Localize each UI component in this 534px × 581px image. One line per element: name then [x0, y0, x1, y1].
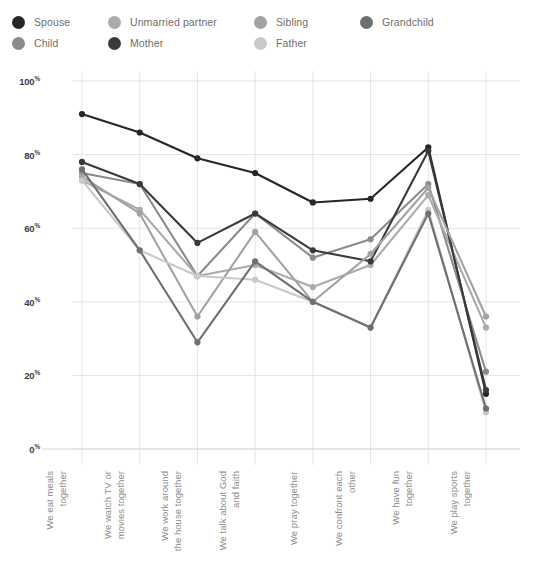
data-point-spouse-0[interactable] — [79, 111, 85, 117]
legend-item-label: Child — [34, 37, 58, 50]
x-axis-label-text: We have funtogether — [390, 471, 415, 581]
legend-item-sibling[interactable]: Sibling — [254, 14, 308, 30]
data-point-spouse-5[interactable] — [367, 196, 373, 202]
x-axis-label-text: We eat mealstogether — [44, 471, 69, 581]
x-axis-tick-label: We pray together — [300, 471, 313, 581]
data-point-father-2[interactable] — [194, 273, 200, 279]
data-point-mother-7[interactable] — [483, 387, 489, 393]
x-axis-tick-label: We have funtogether — [415, 471, 428, 581]
data-point-mother-5[interactable] — [367, 258, 373, 264]
data-point-grandchild-4[interactable] — [310, 299, 316, 305]
legend-swatch-icon — [108, 16, 121, 29]
data-point-grandchild-2[interactable] — [194, 339, 200, 345]
data-point-spouse-1[interactable] — [137, 129, 143, 135]
legend-item-child[interactable]: Child — [12, 35, 58, 51]
data-point-father-0[interactable] — [79, 177, 85, 183]
legend-item-label: Sibling — [276, 16, 308, 29]
legend-item-label: Mother — [130, 37, 163, 50]
data-point-father-3[interactable] — [252, 277, 258, 283]
y-axis-tick-label: 100% — [6, 75, 40, 87]
x-axis-tick-label: We confront eachother — [358, 471, 371, 581]
x-axis-label-text: We watch TV ormovies together — [102, 471, 127, 581]
legend-item-label: Father — [276, 37, 307, 50]
x-axis-label-text: We confront eachother — [333, 471, 358, 581]
x-axis-tick-label: We watch TV ormovies together — [127, 471, 140, 581]
y-axis-tick-label: 80% — [6, 149, 40, 161]
x-axis-label-text: We play sportstogether — [448, 471, 473, 581]
data-point-grandchild-7[interactable] — [483, 405, 489, 411]
legend-item-spouse[interactable]: Spouse — [12, 14, 70, 30]
data-point-sibling-3[interactable] — [252, 229, 258, 235]
data-point-sibling-2[interactable] — [194, 313, 200, 319]
legend-swatch-icon — [108, 37, 121, 50]
legend-item-father[interactable]: Father — [254, 35, 307, 51]
data-point-mother-4[interactable] — [310, 247, 316, 253]
y-axis-tick-label: 40% — [6, 296, 40, 308]
data-point-spouse-2[interactable] — [194, 155, 200, 161]
legend-item-label: Spouse — [34, 16, 70, 29]
x-axis-tick-label: We talk about Godand faith — [242, 471, 255, 581]
legend-item-label: Unmarried partner — [130, 16, 217, 29]
data-point-sibling-1[interactable] — [137, 210, 143, 216]
x-axis-tick-label: We eat mealstogether — [69, 471, 82, 581]
legend-item-unmarried-partner[interactable]: Unmarried partner — [108, 14, 217, 30]
series-line-grandchild[interactable] — [82, 169, 486, 408]
y-axis-tick-label: 60% — [6, 222, 40, 234]
x-axis-tick-label: We work aroundthe house together — [184, 471, 197, 581]
x-axis-label-text: We pray together — [287, 471, 300, 581]
data-point-mother-0[interactable] — [79, 159, 85, 165]
legend-item-label: Grandchild — [382, 16, 434, 29]
data-point-grandchild-3[interactable] — [252, 258, 258, 264]
chart-legend: SpouseChildUnmarried partnerMotherSiblin… — [12, 14, 522, 58]
data-point-mother-1[interactable] — [137, 181, 143, 187]
data-point-sibling-6[interactable] — [425, 185, 431, 191]
data-point-mother-2[interactable] — [194, 240, 200, 246]
chart-plot-area: 0%20%40%60%80%100% We eat mealstogetherW… — [0, 60, 534, 581]
data-point-sibling-7[interactable] — [483, 313, 489, 319]
series-line-father[interactable] — [82, 180, 486, 412]
data-point-child-7[interactable] — [483, 369, 489, 375]
legend-swatch-icon — [254, 37, 267, 50]
data-point-mother-6[interactable] — [425, 148, 431, 154]
x-axis-label-text: We work aroundthe house together — [159, 471, 184, 581]
data-point-mother-3[interactable] — [252, 210, 258, 216]
x-axis-tick-label: We play sportstogether — [473, 471, 486, 581]
legend-item-mother[interactable]: Mother — [108, 35, 163, 51]
data-point-grandchild-5[interactable] — [367, 324, 373, 330]
x-axis-label-text: We talk about Godand faith — [217, 471, 242, 581]
data-point-unmarried-partner-4[interactable] — [310, 284, 316, 290]
data-point-spouse-4[interactable] — [310, 199, 316, 205]
data-point-child-5[interactable] — [367, 236, 373, 242]
data-point-spouse-3[interactable] — [252, 170, 258, 176]
legend-swatch-icon — [12, 37, 25, 50]
data-point-grandchild-0[interactable] — [79, 166, 85, 172]
y-axis-tick-label: 20% — [6, 369, 40, 381]
data-point-sibling-5[interactable] — [367, 251, 373, 257]
data-point-child-4[interactable] — [310, 255, 316, 261]
legend-swatch-icon — [360, 16, 373, 29]
legend-swatch-icon — [12, 16, 25, 29]
data-point-grandchild-6[interactable] — [425, 210, 431, 216]
data-point-grandchild-1[interactable] — [137, 247, 143, 253]
legend-item-grandchild[interactable]: Grandchild — [360, 14, 434, 30]
data-point-unmarried-partner-7[interactable] — [483, 324, 489, 330]
series-line-child[interactable] — [82, 173, 486, 372]
legend-swatch-icon — [254, 16, 267, 29]
y-axis-tick-label: 0% — [6, 443, 40, 455]
